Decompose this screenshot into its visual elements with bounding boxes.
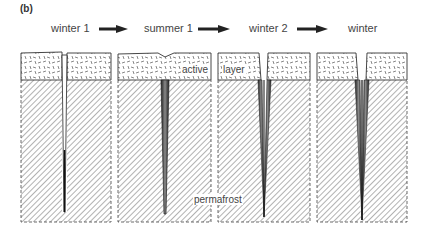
panel-winter: [317, 53, 407, 222]
active-layer-label: active: [181, 64, 209, 75]
arrow-icon: [198, 25, 230, 33]
panel-winter-1: [21, 52, 111, 222]
permafrost-label: permafrost: [193, 194, 243, 205]
active-layer-label-continued: layer: [222, 64, 246, 75]
arrow-icon: [297, 25, 328, 33]
arrow-icon: [99, 25, 128, 33]
